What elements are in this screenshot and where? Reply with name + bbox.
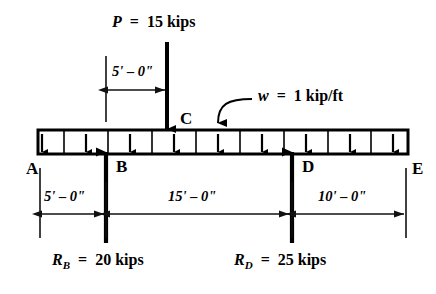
dimension-label-b-d: 15' – 0" xyxy=(168,189,216,204)
dimension-label-d-e: 10' – 0" xyxy=(318,189,366,204)
point-label-d: D xyxy=(302,158,314,175)
reaction-label-b: RB = 20 kips xyxy=(52,252,144,271)
dimension-label-a-b: 5' – 0" xyxy=(44,189,85,204)
point-label-b: B xyxy=(116,158,127,175)
diagram-canvas xyxy=(0,0,436,294)
point-label-c: C xyxy=(180,110,192,127)
point-label-e: E xyxy=(412,160,423,177)
beam-diagram: P = 15 kips w = 1 kip/ft 5' – 0" 5' – 0"… xyxy=(0,0,436,294)
beam-element xyxy=(38,130,408,154)
distributed-load-label: w = 1 kip/ft xyxy=(258,88,343,104)
top-dimension-label: 5' – 0" xyxy=(112,64,153,79)
distributed-load-leader xyxy=(218,99,252,123)
point-label-a: A xyxy=(26,160,38,177)
reaction-label-d: RD = 25 kips xyxy=(234,252,326,271)
point-load-label: P = 15 kips xyxy=(112,14,195,30)
